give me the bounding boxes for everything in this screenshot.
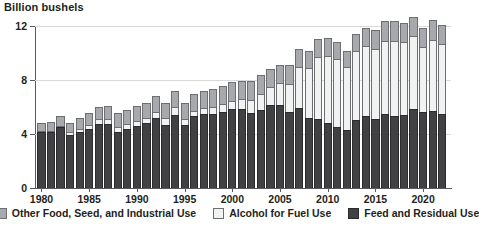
bar-segment-other bbox=[438, 25, 446, 43]
bar-segment-feed bbox=[142, 123, 150, 188]
bar-segment-other bbox=[409, 17, 417, 36]
bar-segment-feed bbox=[209, 114, 217, 188]
bar-segment-fuel bbox=[324, 56, 332, 124]
x-axis-tick-label: 2015 bbox=[364, 193, 387, 205]
bar-segment-other bbox=[104, 106, 112, 119]
bar-segment-fuel bbox=[305, 68, 313, 118]
bar-1984 bbox=[76, 118, 84, 188]
bar-segment-fuel bbox=[285, 84, 293, 113]
bar-segment-other bbox=[228, 82, 236, 101]
bar-segment-other bbox=[95, 107, 103, 119]
bar-2019 bbox=[409, 17, 417, 188]
bar-segment-feed bbox=[276, 105, 284, 188]
bar-segment-feed bbox=[219, 112, 227, 188]
bar-segment-other bbox=[181, 103, 189, 119]
x-axis-tick-label: 2000 bbox=[221, 193, 244, 205]
bar-segment-feed bbox=[181, 125, 189, 188]
bar-segment-fuel bbox=[228, 101, 236, 110]
bar-segment-other bbox=[152, 96, 160, 112]
bar-2020 bbox=[419, 28, 427, 188]
bar-2001 bbox=[238, 81, 246, 188]
bar-segment-other bbox=[381, 21, 389, 40]
bar-1982 bbox=[56, 116, 64, 188]
y-axis-tick-labels: 04812 bbox=[0, 0, 27, 228]
bar-1991 bbox=[142, 103, 150, 188]
legend-swatch-feed bbox=[348, 208, 359, 219]
bar-2021 bbox=[429, 20, 437, 188]
bar-2003 bbox=[257, 75, 265, 188]
bar-1988 bbox=[114, 113, 122, 188]
bar-segment-fuel bbox=[362, 46, 370, 116]
bar-segment-fuel bbox=[295, 67, 303, 108]
bar-segment-fuel bbox=[343, 67, 351, 130]
bar-segment-feed bbox=[352, 120, 360, 188]
bar-segment-feed bbox=[171, 115, 179, 188]
bar-1980 bbox=[37, 123, 45, 188]
bar-segment-other bbox=[114, 113, 122, 127]
bar-2002 bbox=[247, 81, 255, 188]
bar-segment-feed bbox=[371, 119, 379, 188]
bar-2015 bbox=[371, 30, 379, 188]
bar-segment-other bbox=[362, 28, 370, 46]
bar-segment-other bbox=[123, 110, 131, 124]
bar-1996 bbox=[190, 94, 198, 188]
bar-segment-other bbox=[161, 103, 169, 119]
bar-segment-fuel bbox=[419, 47, 427, 113]
bar-2008 bbox=[305, 51, 313, 188]
bar-segment-feed bbox=[266, 105, 274, 188]
bar-segment-feed bbox=[305, 118, 313, 188]
bar-segment-other bbox=[209, 89, 217, 107]
legend-item: Alcohol for Fuel Use bbox=[213, 208, 331, 219]
x-axis-tick-mark bbox=[232, 188, 233, 192]
bar-segment-feed bbox=[390, 116, 398, 188]
bar-segment-other bbox=[295, 49, 303, 67]
bar-1994 bbox=[171, 91, 179, 188]
bar-1986 bbox=[95, 107, 103, 188]
legend-item: Feed and Residual Use bbox=[348, 208, 479, 219]
bar-segment-feed bbox=[56, 127, 64, 188]
bar-segment-other bbox=[238, 81, 246, 100]
bar-segment-other bbox=[390, 21, 398, 40]
bar-segment-feed bbox=[247, 113, 255, 188]
bar-segment-feed bbox=[76, 132, 84, 188]
x-axis-tick-mark bbox=[41, 188, 42, 192]
bar-segment-feed bbox=[85, 129, 93, 188]
x-axis-line bbox=[35, 188, 452, 189]
bar-segment-other bbox=[37, 123, 45, 131]
bar-segment-fuel bbox=[371, 49, 379, 119]
bar-2004 bbox=[266, 69, 274, 188]
bar-segment-other bbox=[276, 65, 284, 83]
bar-1989 bbox=[123, 110, 131, 188]
bar-series-group bbox=[35, 26, 451, 188]
bar-2013 bbox=[352, 34, 360, 188]
chart-legend: Other Food, Seed, and Industrial UseAlco… bbox=[0, 208, 475, 219]
bar-segment-feed bbox=[114, 132, 122, 188]
bar-segment-feed bbox=[66, 135, 74, 188]
y-axis-tick-mark bbox=[30, 188, 35, 189]
bar-segment-fuel bbox=[247, 100, 255, 113]
bar-segment-fuel bbox=[400, 42, 408, 115]
bar-1992 bbox=[152, 96, 160, 188]
bar-2012 bbox=[343, 51, 351, 188]
bar-1990 bbox=[133, 106, 141, 188]
bar-segment-feed bbox=[409, 109, 417, 188]
y-axis-tick-label: 4 bbox=[5, 129, 27, 140]
bar-2011 bbox=[333, 42, 341, 188]
bar-segment-other bbox=[314, 39, 322, 56]
legend-item: Other Food, Seed, and Industrial Use bbox=[0, 208, 196, 219]
bar-segment-other bbox=[305, 51, 313, 68]
bar-segment-feed bbox=[295, 108, 303, 188]
bar-segment-other bbox=[142, 103, 150, 118]
bar-1998 bbox=[209, 89, 217, 188]
bar-segment-feed bbox=[257, 110, 265, 188]
bar-segment-other bbox=[133, 106, 141, 121]
bar-segment-fuel bbox=[438, 44, 446, 114]
bar-segment-feed bbox=[104, 124, 112, 188]
bar-segment-feed bbox=[190, 116, 198, 188]
bar-segment-fuel bbox=[381, 41, 389, 114]
bar-2016 bbox=[381, 21, 389, 188]
bar-segment-feed bbox=[200, 114, 208, 188]
bar-segment-other bbox=[343, 51, 351, 68]
bar-segment-other bbox=[371, 30, 379, 48]
